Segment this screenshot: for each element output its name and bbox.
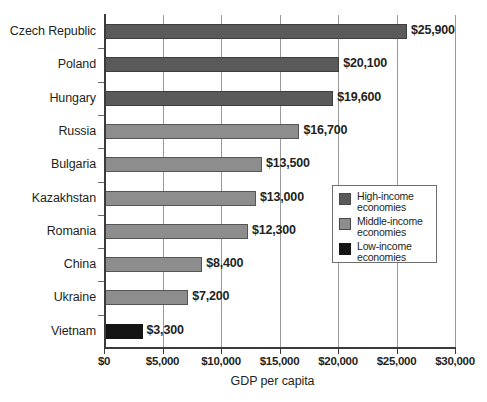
- x-axis-tick-label: $15,000: [260, 355, 299, 367]
- bar[interactable]: [104, 324, 143, 339]
- legend-swatch-middle: [339, 218, 351, 230]
- x-axis-tick-label: $0: [98, 355, 110, 367]
- legend-item[interactable]: Middle-income economies: [339, 216, 436, 238]
- bar-value-label: $12,300: [252, 223, 296, 237]
- x-axis-tick-label: $10,000: [201, 355, 240, 367]
- bar-value-label: $3,300: [147, 323, 184, 337]
- category-label: Romania: [0, 224, 96, 238]
- y-axis-line: [104, 14, 106, 349]
- bar-value-label: $25,900: [411, 23, 455, 37]
- category-label: Czech Republic: [0, 24, 96, 38]
- x-axis-tick: [455, 349, 456, 354]
- bar-value-label: $20,100: [343, 56, 387, 70]
- x-axis-tick: [163, 349, 164, 354]
- x-axis-tick-label: $20,000: [318, 355, 357, 367]
- category-label: Ukraine: [0, 290, 96, 304]
- bar-value-label: $16,700: [303, 123, 347, 137]
- x-axis-tick-label: $5,000: [146, 355, 179, 367]
- category-label: Poland: [0, 57, 96, 71]
- x-axis-tick-label: $30,000: [435, 355, 474, 367]
- bar-value-label: $13,000: [260, 190, 304, 204]
- category-label: Kazakhstan: [0, 191, 96, 205]
- bar-value-label: $19,600: [337, 90, 381, 104]
- bar[interactable]: [104, 257, 202, 272]
- bar[interactable]: [104, 224, 248, 239]
- bar-value-label: $8,400: [206, 256, 243, 270]
- bar[interactable]: [104, 290, 188, 305]
- legend: High-income economiesMiddle-income econo…: [332, 185, 437, 263]
- x-axis-tick: [221, 349, 222, 354]
- bar[interactable]: [104, 57, 339, 72]
- x-axis-tick: [338, 349, 339, 354]
- bar-value-label: $13,500: [266, 156, 310, 170]
- bar[interactable]: [104, 24, 407, 39]
- gdp-per-capita-bar-chart: $25,900$20,100$19,600$16,700$13,500$13,0…: [0, 0, 487, 402]
- category-label: Hungary: [0, 91, 96, 105]
- x-axis-tick: [397, 349, 398, 354]
- category-label: Vietnam: [0, 324, 96, 338]
- bar-value-label: $7,200: [192, 289, 229, 303]
- bar[interactable]: [104, 124, 299, 139]
- category-label: Russia: [0, 124, 96, 138]
- x-axis-tick: [104, 349, 105, 354]
- legend-label: Middle-income economies: [357, 216, 423, 238]
- category-label: China: [0, 257, 96, 271]
- legend-label: High-income economies: [357, 191, 414, 213]
- x-axis-tick-label: $25,000: [377, 355, 416, 367]
- legend-item[interactable]: High-income economies: [339, 191, 436, 213]
- legend-label: Low-income economies: [357, 241, 412, 263]
- bar[interactable]: [104, 157, 262, 172]
- legend-swatch-high: [339, 193, 351, 205]
- category-label: Bulgaria: [0, 157, 96, 171]
- bar[interactable]: [104, 191, 256, 206]
- bar[interactable]: [104, 91, 333, 106]
- x-axis-tick: [280, 349, 281, 354]
- x-axis-title: GDP per capita: [0, 374, 487, 388]
- legend-item[interactable]: Low-income economies: [339, 241, 436, 263]
- legend-swatch-low: [339, 243, 351, 255]
